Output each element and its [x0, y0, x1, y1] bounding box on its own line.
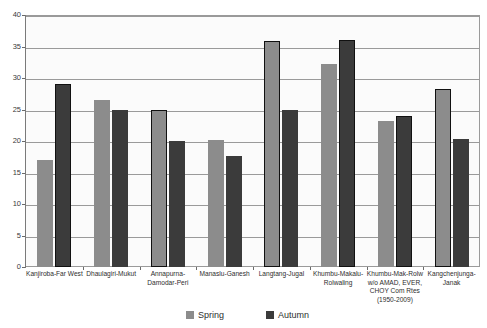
- bar-spring: [378, 121, 394, 267]
- x-label-line: Rolwaling: [310, 279, 367, 288]
- bar-spring: [435, 89, 451, 267]
- bar-group: [196, 15, 253, 267]
- x-label-line: Dhaulagiri-Mukut: [83, 270, 140, 279]
- bars-layer: [26, 15, 480, 267]
- legend-item-spring: Spring: [186, 310, 224, 320]
- bar-group: [423, 15, 480, 267]
- x-label-line: Janak: [423, 279, 480, 288]
- x-axis-label: Annapurna-Damodar-Peri: [140, 270, 197, 287]
- x-label-line: Kangchenjunga-: [423, 270, 480, 279]
- y-tick-label-30: 30: [13, 74, 21, 82]
- bar-autumn: [396, 116, 412, 267]
- x-label-line: Langtang-Jugal: [253, 270, 310, 279]
- bar-autumn: [112, 110, 128, 268]
- y-tick-mark-25: [22, 110, 25, 111]
- x-axis-label: Kangchenjunga-Janak: [423, 270, 480, 287]
- x-label-line: Khumbu-Mak-Rolw: [367, 270, 424, 279]
- x-axis-label: Dhaulagiri-Mukut: [83, 270, 140, 279]
- legend-item-autumn: Autumn: [266, 310, 309, 320]
- y-tick-label-40: 40: [13, 11, 21, 19]
- y-tick-label-0: 0: [17, 263, 21, 271]
- x-tick: [196, 267, 197, 270]
- y-tick-mark-30: [22, 78, 25, 79]
- bar-spring: [37, 160, 53, 267]
- bar-group: [26, 15, 83, 267]
- x-tick: [253, 267, 254, 270]
- y-tick-mark-10: [22, 204, 25, 205]
- y-tick-label-35: 35: [13, 43, 21, 51]
- x-label-line: (1950-2009): [367, 296, 424, 305]
- bar-spring: [208, 140, 224, 267]
- bar-group: [310, 15, 367, 267]
- bar-spring: [264, 41, 280, 267]
- x-tick: [367, 267, 368, 270]
- x-axis-label: Khumbu-Makalu-Rolwaling: [310, 270, 367, 287]
- bar-group: [367, 15, 424, 267]
- x-tick: [140, 267, 141, 270]
- y-tick-mark-15: [22, 173, 25, 174]
- y-tick-label-5: 5: [17, 232, 21, 240]
- x-axis-label: Langtang-Jugal: [253, 270, 310, 279]
- x-axis-label: Khumbu-Mak-Rolww/o AMAD, EVER,CHOY Com R…: [367, 270, 424, 304]
- x-tick: [310, 267, 311, 270]
- x-label-line: Khumbu-Makalu-: [310, 270, 367, 279]
- bar-group: [253, 15, 310, 267]
- bar-group: [140, 15, 197, 267]
- x-label-line: Damodar-Peri: [140, 279, 197, 288]
- x-label-line: Kanjiroba-Far West: [26, 270, 83, 279]
- bar-autumn: [282, 110, 298, 268]
- x-axis-labels: Kanjiroba-Far WestDhaulagiri-MukutAnnapu…: [26, 270, 480, 312]
- bar-spring: [321, 64, 337, 267]
- spring-swatch-icon: [186, 311, 194, 319]
- x-axis-label: Kanjiroba-Far West: [26, 270, 83, 279]
- y-tick-label-15: 15: [13, 169, 21, 177]
- y-tick-mark-5: [22, 236, 25, 237]
- y-tick-mark-40: [22, 15, 25, 16]
- bar-spring: [151, 110, 167, 268]
- x-label-line: Manaslu-Ganesh: [196, 270, 253, 279]
- y-tick-label-10: 10: [13, 200, 21, 208]
- legend-label-spring: Spring: [198, 310, 224, 320]
- y-tick-label-20: 20: [13, 137, 21, 145]
- bar-autumn: [55, 84, 71, 267]
- x-label-line: Annapurna-: [140, 270, 197, 279]
- bar-autumn: [226, 156, 242, 268]
- chart-legend: Spring Autumn: [0, 310, 487, 326]
- y-tick-mark-0: [22, 267, 25, 268]
- x-axis-label: Manaslu-Ganesh: [196, 270, 253, 279]
- y-tick-label-25: 25: [13, 106, 21, 114]
- x-label-line: CHOY Com Rtes: [367, 287, 424, 296]
- autumn-swatch-icon: [266, 311, 274, 319]
- bar-spring: [94, 100, 110, 267]
- legend-label-autumn: Autumn: [278, 310, 309, 320]
- bar-autumn: [169, 141, 185, 267]
- y-tick-mark-35: [22, 47, 25, 48]
- bar-group: [83, 15, 140, 267]
- bar-autumn: [339, 40, 355, 267]
- y-tick-mark-20: [22, 141, 25, 142]
- x-tick: [83, 267, 84, 270]
- bar-autumn: [453, 139, 469, 267]
- bar-chart: 0510152025303540 Kanjiroba-Far WestDhaul…: [0, 0, 487, 328]
- x-label-line: w/o AMAD, EVER,: [367, 279, 424, 288]
- x-tick: [423, 267, 424, 270]
